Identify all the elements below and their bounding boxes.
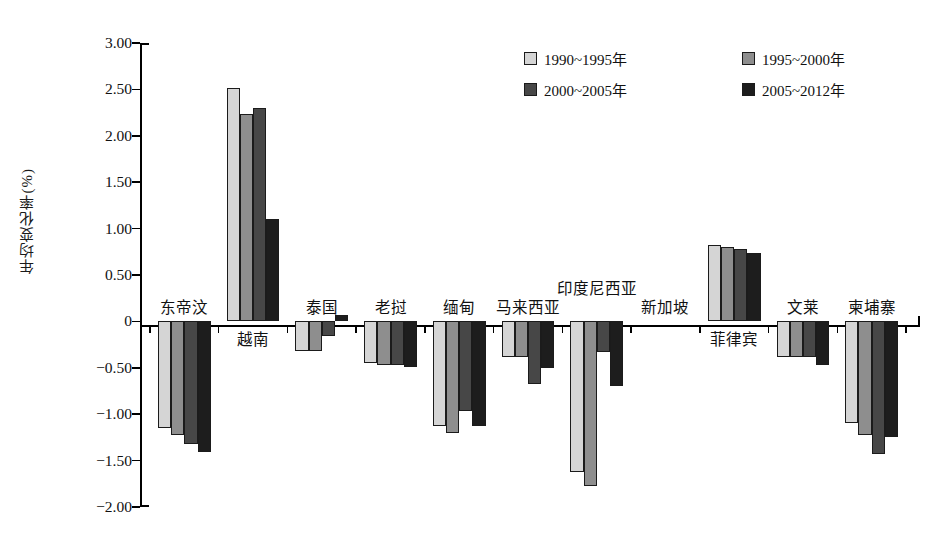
x-axis-right-cap — [918, 316, 920, 325]
y-tick — [132, 274, 140, 276]
y-tick-label: 2.50 — [105, 80, 132, 98]
legend-label: 2000~2005年 — [544, 79, 627, 100]
y-tick — [132, 228, 140, 230]
y-tick-label: 1.00 — [105, 220, 132, 238]
y-tick — [132, 135, 140, 137]
bar — [446, 321, 459, 432]
bar — [541, 321, 554, 367]
bar — [295, 321, 308, 351]
legend-item[interactable]: 2000~2005年 — [524, 79, 627, 100]
plot-area: 东帝汶越南泰国老挝缅甸马来西亚印度尼西亚新加坡菲律宾文莱柬埔寨 — [140, 43, 920, 507]
legend-label: 1990~1995年 — [544, 48, 627, 69]
bar — [309, 321, 322, 351]
bar — [322, 321, 335, 336]
x-tick — [562, 325, 564, 333]
x-tick — [355, 325, 357, 333]
y-tick — [132, 367, 140, 369]
category-label: 印度尼西亚 — [557, 276, 637, 298]
bar — [433, 321, 446, 426]
y-tick — [132, 321, 140, 323]
bar — [803, 321, 816, 356]
y-tick — [132, 460, 140, 462]
chart-root: 年均变化率(%) 3.002.502.001.501.000.500−0.50−… — [0, 0, 946, 545]
y-tick-label: −1.00 — [96, 405, 132, 423]
y-axis-tick-labels: 3.002.502.001.501.000.500−0.50−1.00−1.50… — [52, 43, 132, 507]
y-tick — [132, 89, 140, 91]
chart-legend: 1990~1995年1995~2000年2000~2005年2005~2012年 — [524, 48, 924, 110]
bar — [747, 253, 760, 322]
y-tick — [132, 42, 140, 44]
legend-item[interactable]: 2005~2012年 — [742, 79, 845, 100]
y-tick — [132, 413, 140, 415]
bar — [777, 321, 790, 356]
category-label: 泰国 — [306, 295, 338, 317]
bar — [171, 321, 184, 434]
y-axis-title: 年均变化率(%) — [16, 168, 40, 274]
bar — [253, 108, 266, 321]
x-tick — [837, 325, 839, 333]
x-tick — [287, 325, 289, 333]
legend-label: 1995~2000年 — [762, 48, 845, 69]
legend-swatch-icon — [742, 83, 755, 96]
bar — [734, 249, 747, 321]
bar — [528, 321, 541, 384]
y-tick — [132, 506, 140, 508]
category-label: 柬埔寨 — [848, 295, 896, 317]
bar — [597, 321, 610, 352]
category-label: 文莱 — [787, 295, 819, 317]
bar — [570, 321, 583, 471]
legend-swatch-icon — [524, 83, 537, 96]
legend-label: 2005~2012年 — [762, 79, 845, 100]
bar — [721, 247, 734, 321]
bar — [885, 321, 898, 437]
category-label: 缅甸 — [443, 295, 475, 317]
bar — [227, 88, 240, 322]
x-tick — [768, 325, 770, 333]
bar — [858, 321, 871, 434]
y-tick-label: 2.00 — [105, 127, 132, 145]
bar — [240, 114, 253, 322]
category-label: 马来西亚 — [496, 295, 560, 317]
bar — [472, 321, 485, 426]
y-axis-top-cap — [140, 43, 149, 45]
bar — [502, 321, 515, 356]
category-label: 菲律宾 — [710, 327, 758, 349]
legend-item[interactable]: 1995~2000年 — [742, 48, 845, 69]
y-tick-label: 3.00 — [105, 34, 132, 52]
legend-swatch-icon — [524, 52, 537, 65]
bar — [364, 321, 377, 363]
bar — [708, 245, 721, 321]
bar — [184, 321, 197, 443]
x-tick — [218, 325, 220, 333]
y-tick-label: 0 — [124, 312, 132, 330]
x-tick — [699, 325, 701, 333]
bar — [391, 321, 404, 365]
bar — [377, 321, 390, 365]
bar — [872, 321, 885, 454]
bar — [404, 321, 417, 366]
x-tick — [149, 325, 151, 333]
x-tick — [424, 325, 426, 333]
y-axis-line — [140, 43, 142, 507]
bar — [515, 321, 528, 356]
category-label: 东帝汶 — [160, 295, 208, 317]
bar — [816, 321, 829, 365]
legend-swatch-icon — [742, 52, 755, 65]
x-tick — [905, 325, 907, 333]
y-tick-label: −2.00 — [96, 498, 132, 516]
category-label: 新加坡 — [641, 295, 689, 317]
y-tick-label: −1.50 — [96, 452, 132, 470]
y-tick-label: −0.50 — [96, 359, 132, 377]
bar — [610, 321, 623, 386]
bar — [845, 321, 858, 423]
x-tick — [493, 325, 495, 333]
bar — [459, 321, 472, 411]
y-tick — [132, 181, 140, 183]
bar — [584, 321, 597, 485]
category-label: 老挝 — [375, 295, 407, 317]
bar — [266, 219, 279, 321]
y-tick-label: 1.50 — [105, 173, 132, 191]
legend-item[interactable]: 1990~1995年 — [524, 48, 627, 69]
y-tick-label: 0.50 — [105, 266, 132, 284]
x-tick — [630, 325, 632, 333]
